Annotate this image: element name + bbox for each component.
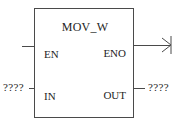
pin-label-out: OUT xyxy=(103,89,126,101)
mov-w-block[interactable]: MOV_W EN ENO IN OUT xyxy=(34,8,134,118)
arrow-right-terminator-icon xyxy=(161,35,175,55)
function-block-diagram-canvas: ???? MOV_W EN ENO IN OUT ???? xyxy=(0,0,180,128)
pin-label-eno: ENO xyxy=(103,47,126,59)
in-operand-placeholder[interactable]: ???? xyxy=(3,81,24,93)
out-output-wire[interactable] xyxy=(134,88,145,89)
pin-label-en: EN xyxy=(44,48,59,60)
block-title: MOV_W xyxy=(35,21,135,34)
out-operand-placeholder[interactable]: ???? xyxy=(148,81,169,93)
pin-label-in: IN xyxy=(44,90,56,102)
